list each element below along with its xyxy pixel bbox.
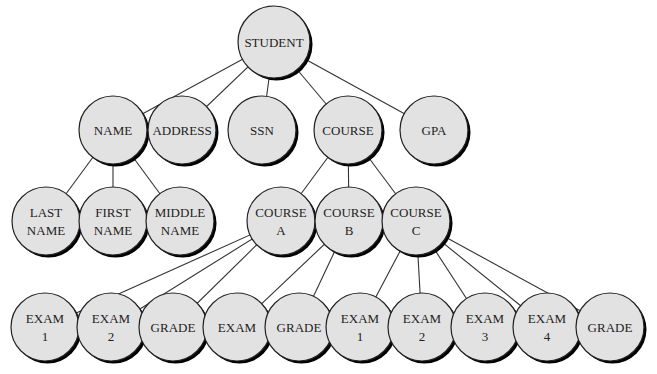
node-label: EXAM bbox=[92, 311, 131, 326]
node-label: GRADE bbox=[277, 320, 322, 335]
node-label: COURSE bbox=[323, 205, 374, 220]
node-label: NAME bbox=[27, 223, 65, 238]
node-address: ADDRESS bbox=[148, 96, 219, 167]
node-label: STUDENT bbox=[244, 35, 303, 50]
node-label: 2 bbox=[419, 329, 426, 344]
node-label: EXAM bbox=[466, 311, 505, 326]
node-c-grade: GRADE bbox=[576, 293, 647, 364]
node-circle bbox=[382, 187, 450, 255]
node-course: COURSE bbox=[314, 96, 385, 167]
node-circle bbox=[12, 187, 80, 255]
node-label: COURSE bbox=[255, 205, 306, 220]
node-circle bbox=[326, 293, 394, 361]
node-label: EXAM bbox=[26, 311, 65, 326]
node-label: ADDRESS bbox=[152, 123, 211, 138]
node-c-exam-1: EXAM1 bbox=[326, 293, 397, 364]
node-label: EXAM bbox=[403, 311, 442, 326]
node-course-a: COURSEA bbox=[247, 187, 318, 258]
node-label: C bbox=[412, 223, 421, 238]
node-label: GRADE bbox=[588, 320, 633, 335]
node-label: EXAM bbox=[341, 311, 380, 326]
node-label: NAME bbox=[94, 123, 132, 138]
node-gpa: GPA bbox=[400, 96, 471, 167]
node-label: GRADE bbox=[151, 320, 196, 335]
node-circle bbox=[315, 187, 383, 255]
node-b-grade: GRADE bbox=[265, 293, 336, 364]
node-circle bbox=[451, 293, 519, 361]
node-label: 3 bbox=[482, 329, 489, 344]
node-circle bbox=[146, 187, 214, 255]
node-course-c: COURSEC bbox=[382, 187, 453, 258]
hierarchy-diagram: STUDENTNAMEADDRESSSSNCOURSEGPALASTNAMEFI… bbox=[0, 0, 657, 374]
node-circle bbox=[77, 293, 145, 361]
node-label: COURSE bbox=[390, 205, 441, 220]
edges-layer bbox=[45, 42, 610, 327]
node-label: A bbox=[276, 223, 286, 238]
node-circle bbox=[513, 293, 581, 361]
node-label: LAST bbox=[30, 205, 63, 220]
node-label: MIDDLE bbox=[155, 205, 206, 220]
node-circle bbox=[11, 293, 79, 361]
node-course-b: COURSEB bbox=[315, 187, 386, 258]
node-a-exam-1: EXAM1 bbox=[11, 293, 82, 364]
node-label: NAME bbox=[94, 223, 132, 238]
node-label: 4 bbox=[544, 329, 551, 344]
node-name: NAME bbox=[79, 96, 150, 167]
node-a-grade: GRADE bbox=[139, 293, 210, 364]
node-last-name: LASTNAME bbox=[12, 187, 83, 258]
node-label: FIRST bbox=[95, 205, 130, 220]
node-first-name: FIRSTNAME bbox=[79, 187, 150, 258]
node-circle bbox=[388, 293, 456, 361]
node-middle-name: MIDDLENAME bbox=[146, 187, 217, 258]
node-student: STUDENT bbox=[238, 6, 313, 81]
node-label: SSN bbox=[250, 123, 274, 138]
node-circle bbox=[247, 187, 315, 255]
node-label: EXAM bbox=[218, 320, 257, 335]
node-c-exam-4: EXAM4 bbox=[513, 293, 584, 364]
node-b-exam: EXAM bbox=[203, 293, 274, 364]
node-label: 1 bbox=[357, 329, 364, 344]
node-c-exam-3: EXAM3 bbox=[451, 293, 522, 364]
node-a-exam-2: EXAM2 bbox=[77, 293, 148, 364]
node-label: 2 bbox=[108, 329, 115, 344]
node-label: COURSE bbox=[322, 123, 373, 138]
node-label: NAME bbox=[161, 223, 199, 238]
node-c-exam-2: EXAM2 bbox=[388, 293, 459, 364]
node-label: 1 bbox=[42, 329, 49, 344]
node-circle bbox=[79, 187, 147, 255]
nodes-layer: STUDENTNAMEADDRESSSSNCOURSEGPALASTNAMEFI… bbox=[11, 6, 647, 364]
node-label: EXAM bbox=[528, 311, 567, 326]
node-ssn: SSN bbox=[228, 96, 299, 167]
node-label: GPA bbox=[422, 123, 447, 138]
node-label: B bbox=[345, 223, 354, 238]
